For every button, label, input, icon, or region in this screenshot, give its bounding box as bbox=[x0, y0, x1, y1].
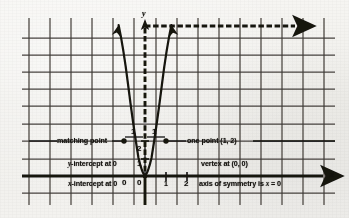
x-tick-0: 0 bbox=[122, 178, 126, 187]
rise-measure: 2 bbox=[137, 144, 141, 153]
point-matching bbox=[121, 138, 126, 143]
point-vertex bbox=[143, 174, 148, 179]
y-tick-1: 1 bbox=[137, 159, 141, 168]
one-point-label: one point (1, 2) bbox=[187, 137, 237, 144]
axis-of-symmetry-value: = 0 bbox=[269, 179, 281, 188]
right-run-measure: 1 bbox=[152, 127, 156, 136]
y-axis-label: y bbox=[142, 9, 146, 18]
y-intercept-text: -intercept at 0 bbox=[71, 159, 117, 168]
x-axis-label: x bbox=[330, 170, 334, 179]
x-tick-2: 2 bbox=[184, 179, 188, 188]
grid-horizontal-lines bbox=[22, 38, 335, 193]
x-tick-1: 1 bbox=[164, 180, 168, 187]
point-one bbox=[163, 138, 168, 143]
origin-tick-0: 0 bbox=[137, 178, 141, 187]
left-run-measure: 1 bbox=[131, 127, 135, 136]
axis-of-symmetry-label: axis of symmetry is x = 0 bbox=[199, 180, 281, 188]
figure-canvas: y x matching point one point (1, 2) y-in… bbox=[0, 0, 349, 218]
vertex-label: vertex at (0, 0) bbox=[201, 160, 248, 167]
y-intercept-label: y-intercept at 0 bbox=[68, 160, 117, 168]
x-intercept-text: -intercept at 0 bbox=[72, 179, 118, 188]
graph-svg bbox=[0, 0, 349, 218]
matching-point-label: matching point bbox=[57, 137, 107, 144]
axis-of-symmetry-prefix: axis of symmetry is bbox=[199, 179, 266, 188]
x-intercept-label: x-intercept at 0 bbox=[68, 180, 117, 188]
